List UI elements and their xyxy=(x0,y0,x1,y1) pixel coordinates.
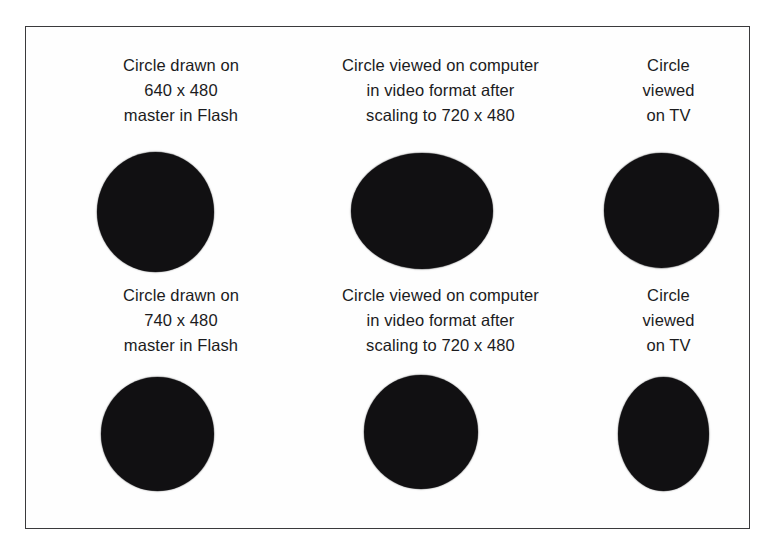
shape-area-row1-col3 xyxy=(586,128,751,273)
circle-shape-row2-col2 xyxy=(364,375,478,489)
caption-line: 640 x 480 xyxy=(56,78,306,103)
shape-area-row1-col1 xyxy=(56,128,306,273)
caption-row2-col2: Circle viewed on computer in video forma… xyxy=(298,283,583,358)
caption-line: viewed xyxy=(586,78,751,103)
figure-border-frame: Circle drawn on 640 x 480 master in Flas… xyxy=(25,26,750,529)
caption-row1-col1: Circle drawn on 640 x 480 master in Flas… xyxy=(56,53,306,128)
caption-row2-col3: Circle viewed on TV xyxy=(586,283,751,358)
shape-area-row2-col1 xyxy=(56,358,306,503)
circle-shape-row2-col1 xyxy=(101,377,214,491)
circle-shape-row1-col1 xyxy=(97,152,214,272)
cell-row2-col3: Circle viewed on TV xyxy=(586,283,751,503)
caption-line: Circle drawn on xyxy=(56,53,306,78)
cell-row1-col1: Circle drawn on 640 x 480 master in Flas… xyxy=(56,53,306,273)
cell-row1-col2: Circle viewed on computer in video forma… xyxy=(298,53,583,273)
figure-grid: Circle drawn on 640 x 480 master in Flas… xyxy=(26,27,749,528)
caption-line: Circle viewed on computer xyxy=(298,53,583,78)
caption-row2-col1: Circle drawn on 740 x 480 master in Flas… xyxy=(56,283,306,358)
shape-area-row1-col2 xyxy=(298,128,583,273)
caption-line: 740 x 480 xyxy=(56,308,306,333)
caption-row1-col2: Circle viewed on computer in video forma… xyxy=(298,53,583,128)
caption-row1-col3: Circle viewed on TV xyxy=(586,53,751,128)
caption-line: Circle viewed on computer xyxy=(298,283,583,308)
caption-line: scaling to 720 x 480 xyxy=(298,333,583,358)
figure-root: Circle drawn on 640 x 480 master in Flas… xyxy=(0,0,779,557)
circle-shape-row1-col3 xyxy=(604,153,719,268)
caption-line: on TV xyxy=(586,103,751,128)
wide-ellipse-shape-row1-col2 xyxy=(351,153,493,269)
caption-line: in video format after xyxy=(298,308,583,333)
caption-line: Circle xyxy=(586,283,751,308)
caption-line: scaling to 720 x 480 xyxy=(298,103,583,128)
caption-line: on TV xyxy=(586,333,751,358)
caption-line: Circle xyxy=(586,53,751,78)
shape-area-row2-col2 xyxy=(298,358,583,503)
cell-row2-col1: Circle drawn on 740 x 480 master in Flas… xyxy=(56,283,306,503)
shape-area-row2-col3 xyxy=(586,358,751,503)
cell-row1-col3: Circle viewed on TV xyxy=(586,53,751,273)
cell-row2-col2: Circle viewed on computer in video forma… xyxy=(298,283,583,503)
caption-line: master in Flash xyxy=(56,103,306,128)
caption-line: viewed xyxy=(586,308,751,333)
tall-ellipse-shape-row2-col3 xyxy=(618,377,709,491)
caption-line: in video format after xyxy=(298,78,583,103)
caption-line: Circle drawn on xyxy=(56,283,306,308)
caption-line: master in Flash xyxy=(56,333,306,358)
